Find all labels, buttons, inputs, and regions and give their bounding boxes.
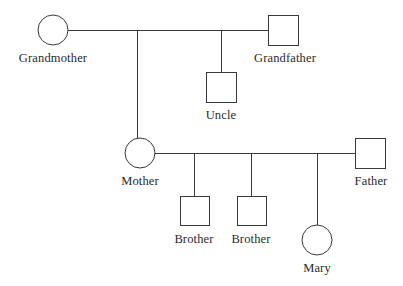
symbol-brother-two[interactable] — [237, 196, 266, 225]
symbol-grandfather[interactable] — [268, 15, 298, 45]
label-father: Father — [355, 175, 388, 188]
label-brother-one: Brother — [174, 233, 213, 246]
symbol-mary[interactable] — [302, 225, 332, 255]
symbol-grandmother[interactable] — [38, 15, 68, 45]
label-brother-two: Brother — [231, 233, 270, 246]
symbol-mother[interactable] — [125, 138, 155, 168]
symbol-uncle[interactable] — [206, 72, 236, 102]
label-grandfather: Grandfather — [254, 52, 316, 65]
pedigree-chart: Grandmother Grandfather Uncle Mother Fat… — [0, 0, 403, 286]
label-uncle: Uncle — [206, 109, 237, 122]
label-mary: Mary — [303, 262, 331, 275]
symbol-brother-one[interactable] — [180, 196, 209, 225]
symbol-father[interactable] — [355, 138, 385, 168]
label-grandmother: Grandmother — [19, 52, 87, 65]
label-mother: Mother — [121, 175, 159, 188]
